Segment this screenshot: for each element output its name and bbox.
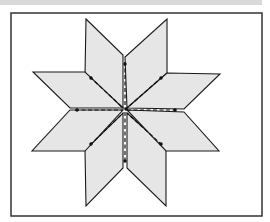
seam-end-dot — [123, 159, 126, 162]
seam-end-dot — [89, 142, 92, 145]
seam-end-dot — [123, 62, 126, 65]
seam-end-dot — [75, 108, 78, 111]
seam-end-dot — [173, 108, 176, 111]
star-diagram — [0, 0, 270, 222]
seam-end-dot — [159, 142, 162, 145]
seam-end-dot — [89, 76, 92, 79]
center-point — [124, 107, 128, 111]
star-diamonds — [32, 19, 220, 206]
seam-end-dot — [159, 76, 162, 79]
